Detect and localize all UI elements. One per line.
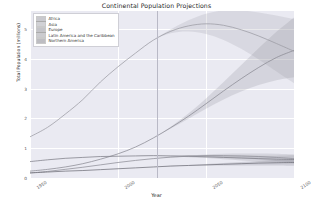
legend-label: Latin America and the Caribbean bbox=[49, 33, 115, 38]
x-tick-label: 2050 bbox=[212, 180, 224, 190]
x-tick-label: 2000 bbox=[124, 180, 136, 190]
legend-item[interactable]: Africa bbox=[36, 16, 115, 21]
legend-label: Northern America bbox=[49, 38, 85, 43]
y-tick-label: 5 bbox=[0, 26, 27, 31]
chart-figure: Continental Population Projections Total… bbox=[0, 0, 313, 203]
legend-label: Africa bbox=[49, 16, 60, 21]
chart-legend: AfricaAsiaEuropeLatin America and the Ca… bbox=[33, 13, 119, 47]
chart-title: Continental Population Projections bbox=[0, 2, 313, 9]
y-tick-label: 1 bbox=[0, 146, 27, 151]
legend-item[interactable]: Asia bbox=[36, 22, 115, 27]
legend-item[interactable]: Latin America and the Caribbean bbox=[36, 33, 115, 38]
x-tick-label: 2100 bbox=[300, 180, 312, 190]
projection-divider-line bbox=[157, 11, 158, 178]
legend-swatch bbox=[36, 38, 46, 44]
y-tick-label: 3 bbox=[0, 86, 27, 91]
y-tick-label: 0 bbox=[0, 176, 27, 181]
legend-label: Europe bbox=[49, 27, 63, 32]
legend-item[interactable]: Northern America bbox=[36, 38, 115, 43]
x-axis-label: Year bbox=[0, 192, 313, 198]
x-tick-label: 1950 bbox=[36, 180, 48, 190]
legend-item[interactable]: Europe bbox=[36, 27, 115, 32]
y-tick-label: 4 bbox=[0, 56, 27, 61]
y-tick-label: 2 bbox=[0, 116, 27, 121]
legend-label: Asia bbox=[49, 22, 57, 27]
